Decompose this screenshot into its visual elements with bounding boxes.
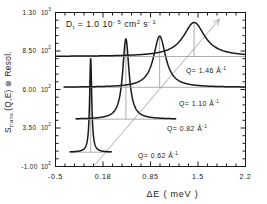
y-tick-exponent-2: 2 (48, 84, 51, 89)
figure-root: -0.50.180.851.52.2-1.001023.501026.00102… (0, 0, 267, 204)
series-label-1: Q= 0.82 Å-1 (167, 124, 207, 133)
diffusion-coefficient-annotation: Dt = 1.0 10- 5 cm2 s- 1 (66, 19, 156, 31)
y-tick-mantissa-4: 1.30 (22, 9, 36, 16)
x-tick-label-0: -0.5 (48, 172, 63, 181)
y-tick-exponent-1: 2 (48, 122, 51, 127)
y-tick-mantissa-1: 3.50 (22, 124, 36, 131)
y-tick-mantissa-2: 6.00 (22, 86, 36, 93)
spectrum-curve-0 (70, 59, 112, 153)
x-tick-label-3: 1.5 (192, 172, 204, 181)
series-label-0: Q= 0.62 Å-1 (138, 151, 178, 160)
x-tick-label-2: 0.85 (142, 172, 158, 181)
svg-text:Strans.(Q,E) ⊗ Resol.: Strans.(Q,E) ⊗ Resol. (4, 51, 14, 133)
y-axis-title: Strans.(Q,E) ⊗ Resol. (4, 51, 14, 133)
x-tick-label-4: 2.2 (240, 172, 252, 181)
x-tick-label-1: 0.18 (95, 172, 111, 181)
axes-frame (56, 13, 246, 167)
y-tick-mantissa-0: -1.00 (21, 163, 38, 170)
y-tick-mantissa-3: 8.50 (22, 47, 36, 54)
y-tick-exponent-0: 2 (48, 161, 51, 166)
y-tick-exponent-3: 2 (48, 45, 51, 50)
series-label-2: Q= 1.10 Å-1 (179, 99, 219, 108)
x-axis-title: ΔE ( meV ) (146, 189, 198, 199)
quasielastic-spectra-chart: -0.50.180.851.52.2-1.001023.501026.00102… (0, 0, 267, 204)
y-tick-exponent-4: 3 (48, 7, 51, 12)
series-label-3: Q= 1.46 Å-1 (186, 66, 226, 75)
